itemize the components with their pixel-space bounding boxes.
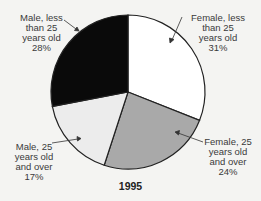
label-percent: 31%: [178, 43, 258, 53]
label-percent: 24%: [198, 167, 258, 177]
label-male-lt25: Male, less than 25 years old 28%: [4, 13, 79, 53]
label-male-25plus: Male, 25 years old and over 17%: [4, 142, 64, 182]
label-percent: 28%: [4, 43, 79, 53]
label-female-25plus: Female, 25 years old and over 24%: [198, 137, 258, 177]
label-female-lt25: Female, less than 25 years old 31%: [178, 13, 258, 53]
chart-title: 1995: [0, 180, 261, 192]
